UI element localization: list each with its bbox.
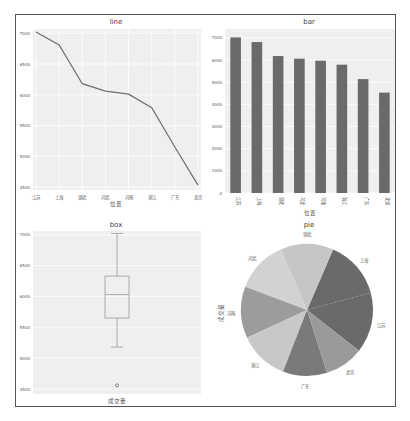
box-xlabel: 成交量	[108, 397, 126, 405]
y-tick-label: 6000	[212, 58, 223, 63]
x-tick-label: 上海	[256, 197, 263, 206]
pie-label: 湖北	[303, 231, 312, 238]
x-tick-label: 河南	[125, 194, 134, 200]
bar-y-axis: 01000200030004000500060007000	[212, 35, 223, 195]
y-tick-label: 5000	[20, 356, 31, 361]
bar	[315, 61, 326, 193]
y-tick-label: 5500	[20, 123, 31, 128]
x-tick-label: 上海	[55, 194, 64, 201]
y-tick-label: 2000	[212, 146, 223, 151]
y-tick-label: 5500	[20, 325, 31, 330]
y-tick-label: 6500	[20, 62, 31, 67]
x-tick-label: 北京	[384, 197, 391, 206]
y-tick-label: 4500	[20, 185, 31, 190]
box-y-axis: 700065006000550050004500	[20, 232, 31, 391]
box-title: box	[110, 221, 123, 229]
y-tick-label: 4000	[212, 102, 223, 107]
line-chart: line 700065006000550050004500 江苏上海湖北河北河南…	[0, 0, 205, 210]
y-tick-label: 7000	[20, 232, 31, 237]
bar	[273, 56, 284, 193]
pie-label: 上海	[360, 257, 369, 264]
bar-title: bar	[303, 18, 315, 26]
pie-label: 浙江	[251, 362, 260, 369]
bar	[252, 42, 263, 193]
bar	[379, 93, 390, 193]
x-tick-label: 江苏	[32, 194, 41, 201]
y-tick-label: 3000	[212, 124, 223, 129]
y-tick-label: 6500	[20, 263, 31, 268]
bar	[358, 79, 369, 193]
x-tick-label: 江苏	[235, 197, 242, 206]
pie-label: 北京	[346, 369, 355, 376]
y-tick-label: 6000	[20, 93, 31, 98]
box-chart: box 700065006000550050004500 成交量	[0, 210, 205, 410]
pie-label: 河南	[227, 310, 236, 316]
line-xlabel: 位置	[110, 200, 122, 207]
line-title: line	[110, 18, 123, 26]
bar-x-axis: 江苏上海湖北河北河南浙江广东北京	[235, 197, 391, 206]
pie-ylabel: 成交量	[217, 304, 225, 322]
x-tick-label: 河北	[299, 197, 306, 206]
bar	[294, 59, 305, 193]
x-tick-label: 河南	[321, 197, 327, 206]
bar	[337, 65, 348, 193]
y-tick-label: 7000	[20, 31, 31, 36]
pie-title: pie	[304, 221, 315, 229]
pie-label: 江苏	[377, 322, 386, 329]
x-tick-label: 北京	[194, 194, 203, 201]
x-tick-label: 浙江	[148, 194, 157, 201]
x-tick-label: 广东	[171, 194, 180, 201]
line-plot-area	[33, 29, 201, 190]
y-tick-label: 5000	[212, 80, 223, 85]
y-tick-label: 6000	[20, 294, 31, 299]
x-tick-label: 浙江	[341, 197, 348, 206]
line-x-axis: 江苏上海湖北河北河南浙江广东北京	[32, 194, 203, 201]
x-tick-label: 湖北	[278, 197, 285, 206]
x-tick-label: 广东	[363, 197, 370, 206]
y-tick-label: 0	[219, 191, 222, 196]
bar	[230, 37, 241, 193]
y-tick-label: 4500	[20, 387, 31, 392]
bar-chart: bar 01000200030004000500060007000 江苏上海湖北…	[205, 0, 410, 220]
pie-label: 河北	[248, 255, 257, 262]
y-tick-label: 5000	[20, 154, 31, 159]
pie-chart: pie 江苏上海湖北河北河南浙江广东北京 成交量	[205, 210, 410, 410]
y-tick-label: 1000	[212, 168, 223, 173]
line-y-axis: 700065006000550050004500	[20, 31, 31, 190]
bar-plot-area	[225, 29, 395, 193]
x-tick-label: 河北	[101, 194, 110, 201]
pie-label: 广东	[301, 383, 310, 390]
y-tick-label: 7000	[212, 35, 223, 40]
x-tick-label: 湖北	[78, 194, 87, 201]
pie-wedges	[241, 244, 373, 376]
